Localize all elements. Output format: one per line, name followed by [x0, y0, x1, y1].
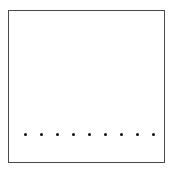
dot — [40, 133, 43, 136]
dot — [120, 133, 123, 136]
dot — [24, 133, 27, 136]
dot — [88, 133, 91, 136]
dot-row — [0, 0, 174, 173]
dot — [56, 133, 59, 136]
dot — [104, 133, 107, 136]
dot — [152, 133, 155, 136]
dot — [72, 133, 75, 136]
dot — [136, 133, 139, 136]
